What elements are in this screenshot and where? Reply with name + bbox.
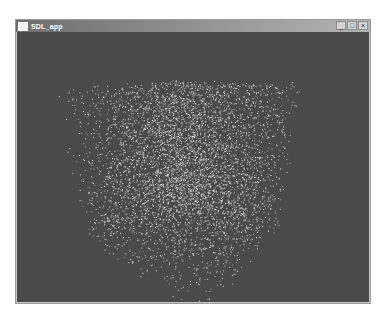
window-controls: _ □ ×: [336, 21, 368, 30]
close-button[interactable]: ×: [358, 21, 368, 30]
maximize-button[interactable]: □: [347, 21, 357, 30]
render-canvas[interactable]: [17, 32, 369, 302]
sdl-app-window: SDL_app _ □ ×: [15, 19, 371, 304]
window-title: SDL_app: [31, 23, 63, 30]
minimize-button[interactable]: _: [336, 21, 346, 30]
title-bar[interactable]: SDL_app _ □ ×: [16, 20, 370, 32]
point-cloud: [17, 32, 371, 304]
app-icon: [18, 22, 28, 31]
